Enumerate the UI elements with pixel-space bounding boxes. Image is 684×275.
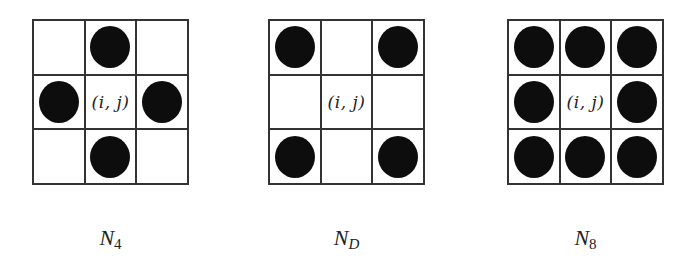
panel-nd: (i, j) [268, 19, 425, 185]
cell [136, 20, 188, 75]
center-cell: (i, j) [560, 75, 612, 130]
cell [372, 20, 424, 75]
cell [269, 75, 321, 130]
grid-n8: (i, j) [507, 19, 664, 185]
panel-n8: (i, j) [507, 19, 664, 185]
center-cell: (i, j) [85, 75, 137, 130]
neighbor-dot [514, 26, 554, 68]
cell [508, 20, 560, 75]
neighbor-dot [565, 136, 605, 178]
cell [372, 129, 424, 184]
neighbor-dot [142, 81, 182, 123]
cell [372, 75, 424, 130]
grid-nd: (i, j) [268, 19, 425, 185]
neighbor-dot [90, 26, 130, 68]
cell [85, 129, 137, 184]
caption-subscript: 4 [114, 236, 122, 252]
cell [611, 75, 663, 130]
center-cell: (i, j) [321, 75, 373, 130]
cell [269, 20, 321, 75]
neighbor-dot [617, 81, 657, 123]
panel-n4: (i, j) [32, 19, 189, 185]
cell [560, 129, 612, 184]
caption-subscript: 8 [589, 236, 597, 252]
cell [269, 129, 321, 184]
cell [611, 129, 663, 184]
cell [508, 75, 560, 130]
caption-nd: ND [268, 225, 425, 253]
cell [33, 75, 85, 130]
caption-base: N [99, 225, 114, 250]
cell [136, 75, 188, 130]
neighbor-dot [275, 136, 315, 178]
caption-base: N [334, 225, 349, 250]
neighbor-dot [90, 136, 130, 178]
cell [611, 20, 663, 75]
neighbor-dot [514, 81, 554, 123]
neighbor-dot [378, 136, 418, 178]
caption-n4: N4 [32, 225, 189, 253]
cell [560, 20, 612, 75]
neighbor-dot [39, 81, 79, 123]
cell [136, 129, 188, 184]
neighbor-dot [565, 26, 605, 68]
grid-n4: (i, j) [32, 19, 189, 185]
cell [508, 129, 560, 184]
neighbor-dot [275, 26, 315, 68]
center-pixel-label: (i, j) [328, 92, 366, 112]
cell [85, 20, 137, 75]
cell [321, 129, 373, 184]
cell [33, 129, 85, 184]
cell [33, 20, 85, 75]
cell [321, 20, 373, 75]
caption-base: N [574, 225, 589, 250]
center-pixel-label: (i, j) [92, 92, 130, 112]
caption-n8: N8 [507, 225, 664, 253]
caption-subscript: D [348, 236, 359, 252]
center-pixel-label: (i, j) [567, 92, 605, 112]
neighbor-dot [617, 26, 657, 68]
neighbor-dot [378, 26, 418, 68]
neighbor-dot [514, 136, 554, 178]
neighbor-dot [617, 136, 657, 178]
